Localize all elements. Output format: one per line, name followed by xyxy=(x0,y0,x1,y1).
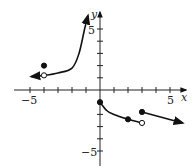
y-tick-label-neg5: −5 xyxy=(81,146,97,159)
function-graph: x y −5 5 5 −5 xyxy=(0,0,195,168)
closed-point-marker xyxy=(139,109,144,114)
curve-branch-1 xyxy=(31,16,88,77)
curve-branch-3 xyxy=(142,112,183,123)
closed-point-marker xyxy=(125,117,130,122)
x-tick-label-5: 5 xyxy=(167,94,174,107)
series xyxy=(31,16,182,123)
y-axis-label: y xyxy=(90,8,98,21)
y-tick-label-5: 5 xyxy=(88,24,95,37)
open-point-marker xyxy=(139,120,144,125)
x-axis-label: x xyxy=(181,91,188,104)
closed-point-marker xyxy=(41,63,46,68)
axes xyxy=(14,12,186,166)
x-tick-label-neg5: −5 xyxy=(21,94,37,107)
open-point-marker xyxy=(41,73,46,78)
curve-branch-2 xyxy=(100,102,142,123)
closed-point-marker xyxy=(97,100,102,105)
